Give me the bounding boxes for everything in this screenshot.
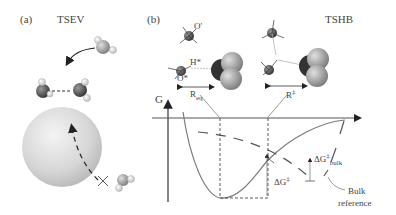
panel-b-title: TSHB: [325, 14, 353, 25]
solute-sphere: [22, 107, 102, 187]
water-molecule-outgoing: [116, 174, 135, 192]
panel-a-graphic: [22, 37, 135, 192]
bulk-reference-label-line1: Bulk: [348, 187, 366, 196]
water-dimer: [36, 79, 91, 102]
atom-label-o-prime: O': [194, 22, 202, 31]
atom-label-o-star: O*: [177, 74, 188, 83]
delta-g-ts-label: ΔG‡: [274, 176, 290, 187]
panel-b-label: (b): [147, 14, 160, 25]
panel-a-title: TSEV: [57, 14, 85, 25]
r-eq-label: Req: [190, 90, 203, 102]
panel-a-label: (a): [20, 14, 32, 25]
water-molecule-incoming: [95, 37, 117, 55]
water-o-star: [168, 66, 215, 79]
cross-mark-icon: [98, 176, 108, 186]
bulk-reference-label-line2: reference: [338, 199, 371, 208]
water-upper-ts: [262, 20, 284, 55]
panel-b-molecules: [168, 20, 329, 90]
diagram-canvas: [0, 0, 396, 215]
r-ts-label: R‡: [286, 89, 296, 100]
solute-cluster-left: [211, 52, 243, 90]
water-lower-ts: [261, 60, 302, 75]
y-axis-label-g: G: [155, 94, 163, 105]
energy-plot: [152, 95, 358, 202]
delta-g-bulk-label: ΔG‡bulk: [314, 153, 342, 167]
solute-cluster-right: [299, 48, 329, 87]
atom-label-h-star: H*: [190, 58, 201, 67]
curved-arrow-icon: [68, 48, 95, 62]
